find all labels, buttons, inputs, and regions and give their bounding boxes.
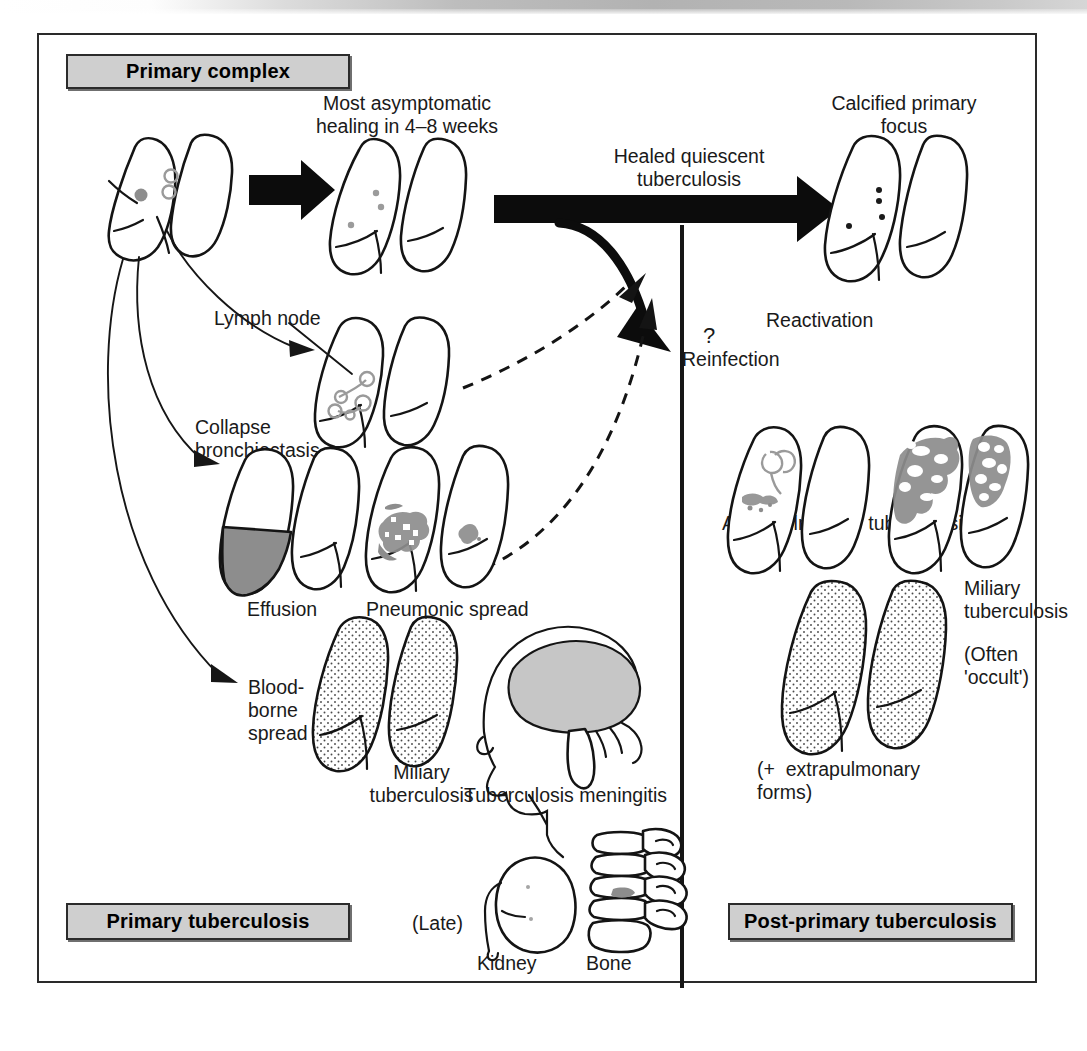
lungs-adult-pulmonary-pair1 bbox=[728, 427, 869, 573]
lungs-primary-complex bbox=[109, 135, 232, 261]
dashed-arrow-upper bbox=[463, 273, 646, 388]
arrow-to-blood-borne-spread bbox=[108, 259, 238, 683]
spine-bone-illustration bbox=[589, 829, 687, 952]
diagram-frame: Primary complex Primary tuberculosis Pos… bbox=[37, 33, 1037, 983]
lungs-healed-asymptomatic bbox=[330, 139, 466, 275]
lungs-miliary-left bbox=[313, 617, 457, 771]
lungs-adult-pulmonary-pair2 bbox=[889, 426, 1028, 573]
lungs-lymph-node bbox=[289, 318, 449, 448]
scan-edge-band bbox=[0, 0, 1087, 14]
diagram-illustrations bbox=[39, 35, 1039, 985]
arrow-to-collapse bbox=[137, 257, 220, 467]
arrow-healed-quiescent bbox=[494, 176, 839, 352]
lungs-pneumonic-spread bbox=[366, 446, 508, 592]
lungs-calcified-primary-focus bbox=[825, 136, 967, 282]
lungs-effusion bbox=[220, 448, 359, 595]
kidney-illustration bbox=[485, 858, 575, 961]
lungs-miliary-right bbox=[782, 581, 946, 755]
arrow-primary-to-healed bbox=[249, 160, 335, 220]
head-brain-meningitis bbox=[477, 627, 641, 857]
